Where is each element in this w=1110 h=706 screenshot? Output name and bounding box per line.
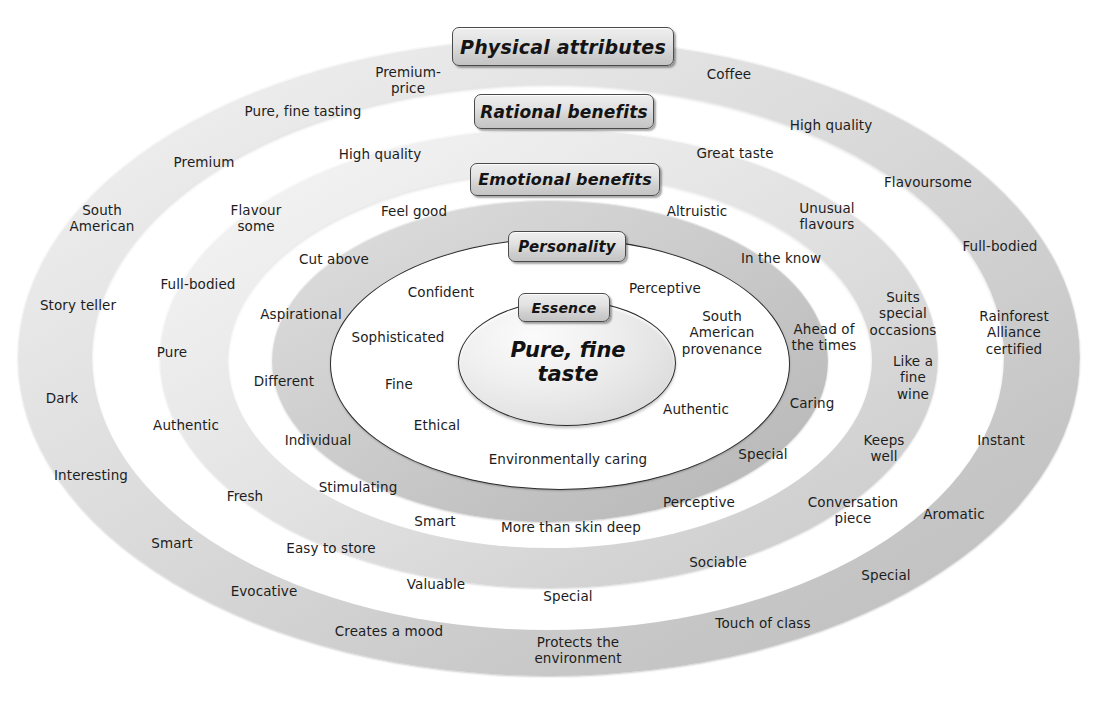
w-fine: Fine [385,376,413,392]
w-in-the-know: In the know [741,250,821,266]
w-conversation: Conversation piece [808,494,898,527]
w-high-quality-l: High quality [339,146,422,162]
w-env-caring: Environmentally caring [489,451,648,467]
w-authentic-in: Authentic [663,401,729,417]
w-smart-out: Smart [151,535,192,551]
w-suits-special: Suits special occasions [870,289,937,338]
w-pure: Pure [157,344,187,360]
w-different: Different [254,373,314,389]
layer-label-emotional-benefits: Emotional benefits [470,163,660,196]
w-aromatic: Aromatic [923,506,984,522]
w-perceptive-in: Perceptive [629,280,701,296]
w-south-am-prov: South American provenance [682,308,763,357]
w-premium: Premium [174,154,235,170]
w-great-taste: Great taste [696,145,773,161]
w-individual: Individual [285,432,352,448]
w-full-bodied-out: Full-bodied [962,238,1037,254]
w-evocative: Evocative [231,583,298,599]
w-ahead-of-times: Ahead of the times [792,321,857,354]
w-interesting: Interesting [54,467,128,483]
w-altruistic: Altruistic [667,203,728,219]
w-flavour-some: Flavour some [231,202,282,235]
w-coffee: Coffee [707,66,751,82]
w-ethical: Ethical [414,417,460,433]
w-more-than-skin: More than skin deep [501,519,641,535]
w-premium-price: Premium- price [375,64,441,97]
w-flavoursome-out: Flavoursome [884,174,972,190]
w-easy-to-store: Easy to store [286,540,375,556]
w-cut-above: Cut above [299,251,369,267]
layer-label-rational-benefits: Rational benefits [474,94,654,129]
w-caring: Caring [790,395,835,411]
w-story-teller: Story teller [40,297,116,313]
w-authentic-mid: Authentic [153,417,219,433]
w-rainforest: Rainforest Alliance certified [979,308,1049,357]
w-sophisticated: Sophisticated [352,329,445,345]
layer-label-physical-attributes: Physical attributes [452,27,674,66]
w-stimulating: Stimulating [319,479,398,495]
w-south-american-out: South American [69,202,134,235]
w-perceptive-emo: Perceptive [663,494,735,510]
w-protects-env: Protects the environment [534,634,621,667]
brand-onion-diagram: Pure, fine taste Physical attributes Rat… [0,0,1110,706]
w-unusual-flavours: Unusual flavours [799,200,854,233]
w-keeps-well: Keeps well [864,432,905,465]
w-fresh: Fresh [227,488,263,504]
w-touch-of-class: Touch of class [715,615,810,631]
w-creates-a-mood: Creates a mood [335,623,443,639]
w-aspirational: Aspirational [260,306,342,322]
w-high-quality-r: High quality [790,117,873,133]
w-like-fine-wine: Like a fine wine [893,353,933,402]
layer-label-essence: Essence [518,293,610,322]
w-full-bodied-mid: Full-bodied [160,276,235,292]
w-smart-emo: Smart [414,513,455,529]
w-confident: Confident [408,284,474,300]
layer-label-personality: Personality [508,231,626,262]
w-instant: Instant [977,432,1025,448]
w-special-emo: Special [738,446,787,462]
essence-core-text: Pure, fine taste [478,338,658,387]
w-special-out-r: Special [861,567,910,583]
w-dark: Dark [46,390,78,406]
w-special-rat: Special [543,588,592,604]
w-sociable: Sociable [689,554,747,570]
w-feel-good: Feel good [381,203,447,219]
w-pure-fine-tasting: Pure, fine tasting [245,103,362,119]
w-valuable: Valuable [407,576,465,592]
